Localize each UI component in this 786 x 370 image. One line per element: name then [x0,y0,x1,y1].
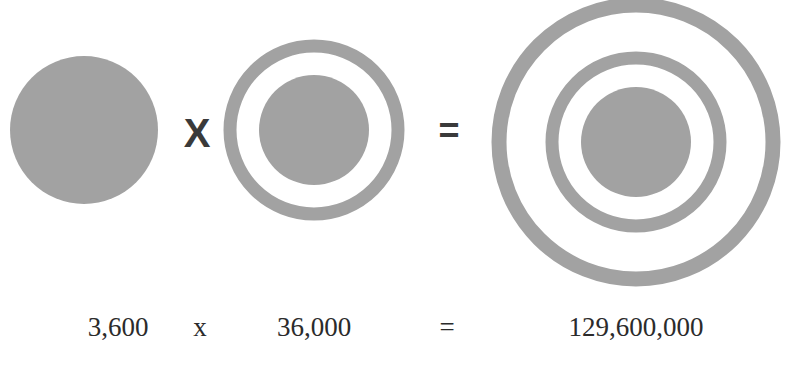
diagram-stage: X = 3,600 x 36,000 = 129,600,000 [0,0,786,370]
multiply-operator-icon: X [184,113,211,153]
term1-label: 3,600 [88,314,149,341]
result-label: 129,600,000 [569,314,704,341]
equals-label: = [439,314,454,341]
single-circle-icon [10,56,158,204]
one-ring-target-icon [230,46,398,214]
times-label: x [193,314,207,341]
two-ring-target-icon [499,5,773,279]
term2-label: 36,000 [277,314,351,341]
equals-operator-icon: = [438,113,459,149]
